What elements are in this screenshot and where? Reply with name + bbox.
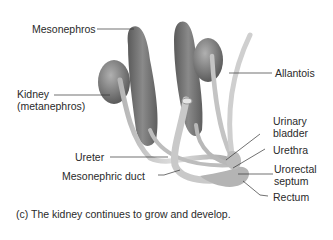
label-rectum: Rectum — [273, 191, 309, 203]
label-kidney: Kidney — [17, 88, 49, 100]
label-urethra: Urethra — [273, 144, 308, 156]
right-mesonephros — [174, 21, 203, 136]
rectum-body — [200, 167, 249, 187]
figure-caption: (c) The kidney continues to grow and dev… — [16, 208, 231, 220]
right-kidney — [193, 38, 223, 82]
label-urorectal: Urorectal — [274, 163, 317, 175]
label-kidney-metanephros: (metanephros) — [17, 100, 85, 112]
label-ureter: Ureter — [75, 151, 104, 163]
label-mesonephros: Mesonephros — [32, 23, 96, 35]
label-mesonephric-duct: Mesonephric duct — [62, 170, 145, 182]
label-allantois: Allantois — [275, 67, 315, 79]
label-urinary: Urinary — [273, 115, 307, 127]
label-urorectal-septum: septum — [274, 175, 308, 187]
allantois-duct — [230, 35, 250, 155]
label-urinary-bladder: bladder — [273, 127, 308, 139]
hindgut-opening — [182, 98, 192, 104]
